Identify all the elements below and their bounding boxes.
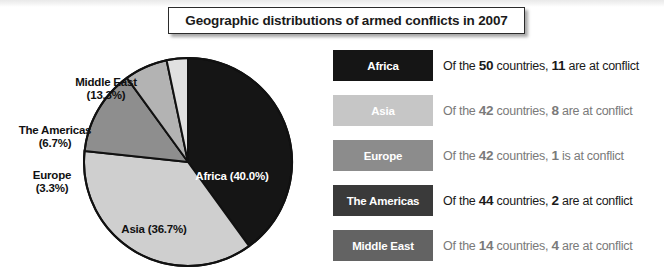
legend-swatch-africa: Africa [333,50,433,81]
legend-desc-prefix: Of the [443,239,479,253]
legend-description: Of the 44 countries, 2 are at conflict [443,193,633,208]
legend-swatch-middle-east: Middle East [333,230,433,261]
legend-row: The AmericasOf the 44 countries, 2 are a… [333,185,664,216]
pie-callout-americas: The Americas (6.7%) [2,124,108,150]
legend-swatch-label: The Americas [347,195,420,207]
pie-label-africa: Africa (40.0%) [190,170,274,184]
chart-title: Geographic distributions of armed confli… [185,13,507,28]
legend-swatch-label: Asia [371,105,395,117]
legend-total-countries: 14 [479,238,494,253]
legend-desc-suffix: is at conflict [559,149,624,163]
pie-label-asia: Asia (36.7%) [115,223,193,237]
legend-desc-mid: countries, [493,239,551,253]
pie-callout-americas-pct: (6.7%) [2,137,108,150]
legend-desc-suffix: are at conflict [559,104,633,118]
legend-conflict-count: 1 [551,148,558,163]
legend-total-countries: 44 [479,193,494,208]
pie-chart: Middle East (13.3%) The Americas (6.7%) … [0,38,320,278]
legend-description: Of the 42 countries, 1 is at conflict [443,148,624,163]
legend-row: Middle EastOf the 14 countries, 4 are at… [333,230,664,261]
legend-description: Of the 42 countries, 8 are at conflict [443,103,633,118]
legend-row: AsiaOf the 42 countries, 8 are at confli… [333,95,664,126]
legend-total-countries: 50 [479,58,494,73]
pie-label-asia-name: Asia [121,223,145,235]
pie-label-africa-pct: (40.0%) [230,170,269,182]
legend-conflict-count: 8 [551,103,558,118]
legend-desc-mid: countries, [493,104,551,118]
legend-desc-mid: countries, [493,149,551,163]
legend-swatch-label: Europe [364,150,402,162]
pie-callout-europe-pct: (3.3%) [10,182,94,195]
legend-total-countries: 42 [479,148,494,163]
legend-desc-mid: countries, [493,194,551,208]
legend-desc-suffix: are at conflict [565,59,639,73]
pie-callout-americas-name: The Americas [19,124,92,136]
legend-swatch-label: Middle East [352,240,414,252]
legend-swatch-asia: Asia [333,95,433,126]
legend-row: EuropeOf the 42 countries, 1 is at confl… [333,140,664,171]
legend-conflict-count: 11 [551,58,565,73]
pie-callout-europe: Europe (3.3%) [10,169,94,195]
legend-desc-prefix: Of the [443,194,479,208]
pie-callout-middle-east-name: Middle East [75,76,137,88]
pie-label-asia-pct: (36.7%) [148,223,187,235]
legend-row: AfricaOf the 50 countries, 11 are at con… [333,50,664,81]
legend-description: Of the 14 countries, 4 are at conflict [443,238,633,253]
legend-swatch-europe: Europe [333,140,433,171]
pie-label-africa-name: Africa [195,170,226,182]
legend-desc-suffix: are at conflict [559,239,633,253]
chart-title-box: Geographic distributions of armed confli… [168,7,525,34]
pie-chart-svg [0,38,320,278]
legend-desc-suffix: are at conflict [559,194,633,208]
legend-conflict-count: 4 [551,238,558,253]
scan-top-band [0,0,664,7]
legend-desc-prefix: Of the [443,149,479,163]
pie-callout-middle-east: Middle East (13.3%) [52,76,160,102]
legend-swatch-label: Africa [367,60,398,72]
legend-desc-mid: countries, [493,59,551,73]
legend-total-countries: 42 [479,103,494,118]
legend: AfricaOf the 50 countries, 11 are at con… [333,50,664,278]
legend-desc-prefix: Of the [443,59,479,73]
legend-conflict-count: 2 [551,193,558,208]
pie-callout-middle-east-pct: (13.3%) [52,89,160,102]
legend-swatch-the-americas: The Americas [333,185,433,216]
legend-desc-prefix: Of the [443,104,479,118]
pie-callout-europe-name: Europe [33,169,71,181]
legend-description: Of the 50 countries, 11 are at conflict [443,58,639,73]
